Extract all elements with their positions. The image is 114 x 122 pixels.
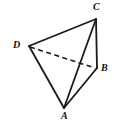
geometry-figure: C D B A <box>0 0 114 122</box>
edge-c-b <box>96 19 97 68</box>
vertex-label-b: B <box>101 63 108 73</box>
vertex-label-c: C <box>93 2 100 12</box>
vertex-label-d: D <box>13 40 20 50</box>
scan-speck <box>42 111 43 112</box>
scan-artifacts <box>42 111 43 112</box>
vertex-label-a: A <box>61 111 68 121</box>
tetrahedron-drawing <box>0 0 114 122</box>
